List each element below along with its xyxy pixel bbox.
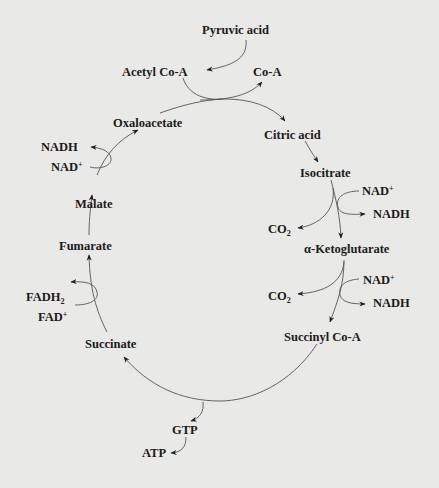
label-pyruvic-acid: Pyruvic acid bbox=[202, 24, 269, 37]
label-citric-acid: Citric acid bbox=[264, 129, 321, 142]
label-nad-plus-isocitrate: NAD+ bbox=[362, 185, 394, 198]
krebs-cycle-diagram: Pyruvic acid Acetyl Co-A Co-A Oxaloaceta… bbox=[0, 0, 439, 488]
label-nadh-isocitrate: NADH bbox=[373, 208, 410, 221]
label-fad-plus: FAD+ bbox=[38, 311, 67, 324]
label-fadh2: FADH2 bbox=[26, 291, 65, 304]
label-succinate: Succinate bbox=[85, 338, 136, 351]
label-co2-isocitrate: CO2 bbox=[268, 223, 291, 236]
label-co2-ketoglutarate: CO2 bbox=[268, 290, 291, 303]
label-fumarate: Fumarate bbox=[59, 240, 112, 253]
label-isocitrate: Isocitrate bbox=[300, 167, 351, 180]
label-alpha-ketoglutarate: α-Ketoglutarate bbox=[304, 243, 389, 256]
label-atp: ATP bbox=[142, 447, 166, 460]
label-nadh-malate: NADH bbox=[41, 141, 78, 154]
label-succinyl-coa: Succinyl Co-A bbox=[284, 331, 361, 344]
label-malate: Malate bbox=[75, 198, 112, 211]
label-nad-plus-malate: NAD+ bbox=[51, 161, 83, 174]
label-acetyl-coa: Acetyl Co-A bbox=[122, 66, 188, 79]
label-nad-plus-ketoglutarate: NAD+ bbox=[363, 274, 395, 287]
label-oxaloacetate: Oxaloacetate bbox=[113, 117, 182, 130]
label-gtp: GTP bbox=[172, 424, 198, 437]
label-coa-released: Co-A bbox=[253, 66, 281, 79]
label-nadh-ketoglutarate: NADH bbox=[373, 297, 410, 310]
